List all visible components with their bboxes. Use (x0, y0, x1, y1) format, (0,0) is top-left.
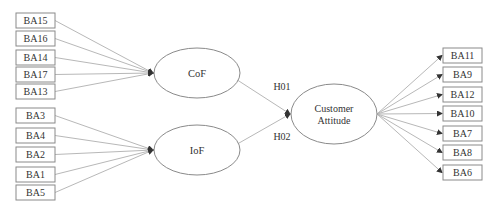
indicator-label: BA1 (26, 169, 45, 180)
indicator-label: BA10 (451, 108, 475, 119)
indicator-label: BA5 (26, 187, 45, 198)
structural-model-diagram: BA15BA16BA14BA17BA13CoFBA3BA4BA2BA1BA5Io… (0, 0, 495, 204)
construct-label-line: Customer (315, 103, 355, 114)
construct-cof: CoF (154, 48, 240, 98)
indicator-arrow (55, 73, 153, 92)
indicator-label: BA17 (24, 69, 48, 80)
indicator-box-ba7: BA7 (443, 126, 482, 141)
indicator-label: BA9 (453, 69, 472, 80)
indicator-box-ba16: BA16 (16, 31, 55, 46)
construct-ellipse (291, 84, 377, 144)
indicator-box-ba15: BA15 (16, 13, 55, 28)
indicator-label: BA3 (26, 110, 45, 121)
indicator-box-ba11: BA11 (443, 48, 482, 63)
indicator-arrow (377, 95, 442, 115)
indicator-arrow (377, 114, 442, 153)
indicator-label: BA2 (26, 149, 45, 160)
construct-customer-attitude: CustomerAttitude (291, 84, 377, 144)
indicator-box-ba4: BA4 (16, 128, 55, 143)
construct-iof: IoF (154, 125, 240, 175)
indicator-box-ba13: BA13 (16, 84, 55, 99)
indicator-box-ba10: BA10 (443, 106, 482, 121)
indicator-box-ba2: BA2 (16, 147, 55, 162)
indicator-box-ba14: BA14 (16, 50, 55, 65)
indicator-box-ba8: BA8 (443, 145, 482, 160)
indicator-box-ba12: BA12 (443, 87, 482, 102)
indicator-label: BA14 (24, 52, 48, 63)
indicator-box-ba5: BA5 (16, 185, 55, 200)
indicator-label: BA6 (453, 167, 472, 178)
indicator-arrow (377, 114, 442, 115)
hypothesis-label: H01 (273, 81, 290, 92)
hypothesis-label: H02 (273, 131, 290, 142)
indicator-arrow (55, 73, 153, 75)
indicator-label: BA11 (451, 50, 475, 61)
construct-label-line: Attitude (318, 115, 351, 126)
indicator-box-ba6: BA6 (443, 165, 482, 180)
indicator-arrow (377, 114, 442, 173)
indicator-arrow (55, 39, 153, 74)
indicator-box-ba9: BA9 (443, 67, 482, 82)
indicator-label: BA12 (451, 89, 475, 100)
indicator-label: BA7 (453, 128, 472, 139)
construct-label: CoF (188, 68, 206, 79)
indicator-label: BA4 (26, 130, 45, 141)
indicator-arrow (377, 75, 442, 115)
indicator-label: BA16 (24, 33, 48, 44)
indicator-arrow (55, 136, 153, 151)
indicator-label: BA8 (453, 147, 472, 158)
indicator-box-ba3: BA3 (16, 108, 55, 123)
indicator-label: BA13 (24, 86, 48, 97)
indicator-arrow (377, 114, 442, 134)
indicator-box-ba1: BA1 (16, 167, 55, 182)
indicator-label: BA15 (24, 15, 48, 26)
indicator-arrow (55, 116, 153, 151)
indicator-box-ba17: BA17 (16, 67, 55, 82)
indicator-arrow (377, 56, 442, 115)
construct-label: IoF (190, 145, 205, 156)
